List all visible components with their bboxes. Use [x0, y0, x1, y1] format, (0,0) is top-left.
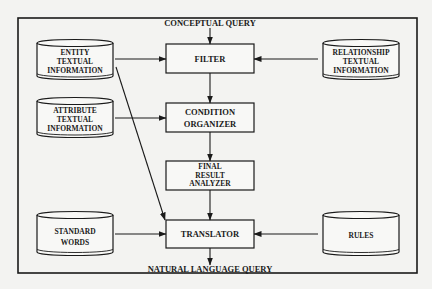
- architecture-diagram: CONCEPTUAL QUERY FILTER CONDITION ORGANI…: [0, 0, 432, 289]
- entity-textual-information-store: ENTITY TEXTUAL INFORMATION: [37, 40, 113, 80]
- conceptual-query-label: CONCEPTUAL QUERY: [164, 18, 256, 28]
- attribute-line-2: TEXTUAL: [57, 115, 93, 124]
- relationship-line-3: INFORMATION: [333, 66, 389, 75]
- entity-line-3: INFORMATION: [47, 66, 103, 75]
- entity-line-1: ENTITY: [61, 48, 90, 57]
- filter-box: FILTER: [166, 44, 254, 73]
- relationship-line-1: RELATIONSHIP: [333, 48, 390, 57]
- words-line: WORDS: [61, 238, 89, 247]
- translator-box: TRANSLATOR: [166, 220, 254, 248]
- translator-label: TRANSLATOR: [181, 229, 240, 239]
- organizer-label: ORGANIZER: [184, 119, 237, 129]
- filter-label: FILTER: [195, 54, 227, 64]
- condition-organizer-box: CONDITION ORGANIZER: [166, 103, 254, 132]
- arrow-entity-to-translator: [116, 67, 165, 220]
- analyzer-label: ANALYZER: [189, 179, 231, 188]
- entity-line-2: TEXTUAL: [57, 57, 93, 66]
- condition-label: CONDITION: [185, 107, 236, 117]
- attribute-textual-information-store: ATTRIBUTE TEXTUAL INFORMATION: [37, 98, 113, 138]
- final-result-analyzer-box: FINAL RESULT ANALYZER: [166, 161, 254, 190]
- relationship-textual-information-store: RELATIONSHIP TEXTUAL INFORMATION: [323, 40, 399, 80]
- attribute-line-3: INFORMATION: [47, 124, 103, 133]
- rules-store: RULES: [323, 212, 399, 256]
- standard-line: STANDARD: [54, 227, 96, 236]
- rules-label: RULES: [348, 231, 373, 240]
- natural-language-query-label: NATURAL LANGUAGE QUERY: [148, 264, 273, 274]
- relationship-line-2: TEXTUAL: [343, 57, 379, 66]
- attribute-line-1: ATTRIBUTE: [53, 106, 97, 115]
- standard-words-store: STANDARD WORDS: [37, 212, 113, 256]
